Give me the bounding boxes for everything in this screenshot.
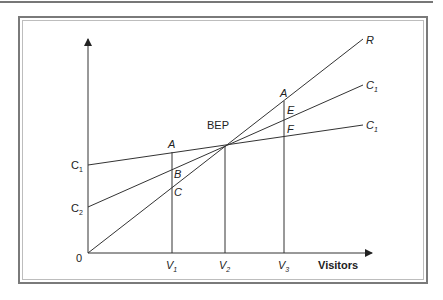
y-label-C1: C1 <box>71 159 83 173</box>
point-E: E <box>287 104 295 116</box>
point-A-left: A <box>167 138 175 150</box>
origin-label: 0 <box>76 252 82 264</box>
bep-label: BEP <box>207 119 229 131</box>
label-C1-lower: C1 <box>366 119 378 133</box>
y-label-C2: C2 <box>71 202 83 216</box>
point-A-right: A <box>279 87 287 99</box>
x-axis-title: Visitors <box>318 259 358 271</box>
x-tick-V2: V2 <box>219 259 230 273</box>
break-even-chart: R C1 C1 C1 C2 0 BEP A B C A E F V1 V2 V3… <box>0 0 443 300</box>
point-F: F <box>287 123 295 135</box>
label-R: R <box>366 34 374 46</box>
point-C: C <box>174 186 182 198</box>
label-C1-upper: C1 <box>366 79 378 93</box>
x-tick-V3: V3 <box>278 259 289 273</box>
x-tick-V1: V1 <box>166 259 177 273</box>
point-B: B <box>174 168 181 180</box>
